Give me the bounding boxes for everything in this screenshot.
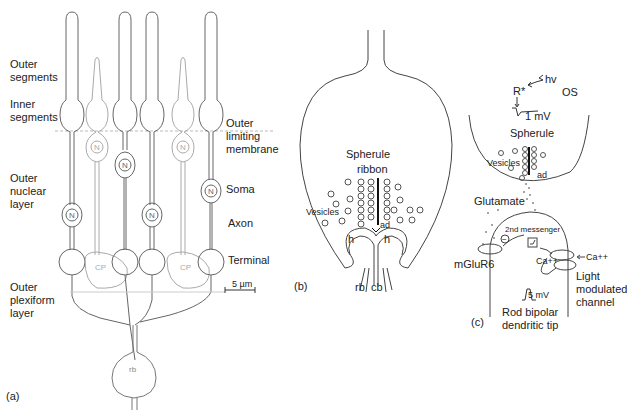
label-2nd-messenger: 2nd messenger xyxy=(505,225,560,234)
vesicles-b xyxy=(322,179,423,227)
panel-tag-b: (b) xyxy=(294,280,307,293)
label-nucleus-cone-1: N xyxy=(94,143,100,152)
spherule-c xyxy=(469,115,589,181)
label-5mv: 5 mV xyxy=(528,290,549,300)
label-outer-nuclear-layer: Outer nuclear layer xyxy=(10,172,46,211)
label-axon: Axon xyxy=(228,217,253,230)
label-spherule-c: Spherule xyxy=(510,127,554,140)
label-ribbon: ribbon xyxy=(357,163,388,176)
label-cone-pedicle-2: CP xyxy=(180,263,191,272)
label-nucleus-cone-2: N xyxy=(180,143,186,152)
label-h-right: h xyxy=(384,233,390,246)
label-1mv: 1 mV xyxy=(525,110,551,123)
label-glutamate: Glutamate xyxy=(474,195,525,208)
panel-tag-a: (a) xyxy=(6,390,19,403)
label-vesicles-b: Vesicles xyxy=(306,207,339,217)
label-ad-c: ad xyxy=(537,170,547,180)
label-soma: Soma xyxy=(226,183,255,196)
label-nucleus-rod-1: N xyxy=(69,211,75,220)
cone-2 xyxy=(167,58,209,289)
glutamate-dots xyxy=(482,183,536,245)
label-light-modulated-channel: Light modulated channel xyxy=(576,270,627,309)
label-outer-plexiform-layer: Outer plexiform layer xyxy=(10,281,55,320)
cone-1 xyxy=(85,58,127,289)
label-rb-b: rb xyxy=(355,281,365,294)
label-ca-in: Ca++ xyxy=(536,256,558,266)
label-vesicles-c: Vesicles xyxy=(487,158,520,168)
label-mglur6: mGluR6 xyxy=(454,258,494,271)
label-cone-pedicle-1: CP xyxy=(95,263,106,272)
label-minus: − xyxy=(502,235,507,244)
label-hv: hv xyxy=(545,73,557,86)
label-nucleus-rod-3: N xyxy=(149,211,155,220)
label-os: OS xyxy=(562,86,578,99)
label-terminal: Terminal xyxy=(228,254,270,267)
label-inner-segments: Inner segments xyxy=(10,98,58,124)
label-outer-segments: Outer segments xyxy=(10,58,58,84)
label-nucleus-rod-4: N xyxy=(208,187,214,196)
label-r-star: R* xyxy=(513,85,525,98)
label-h-left: h xyxy=(348,233,354,246)
label-ad-b: ad xyxy=(380,220,390,230)
label-ca-out: Ca++ xyxy=(586,252,608,262)
label-spherule-b: Spherule xyxy=(346,148,390,161)
rod-3 xyxy=(135,12,165,325)
panel-tag-c: (c) xyxy=(471,316,484,329)
label-scale-bar: 5 µm xyxy=(232,279,252,289)
label-rod-bipolar-dendritic-tip: Rod bipolar dendritic tip xyxy=(502,306,558,332)
label-nucleus-rod-2: N xyxy=(122,161,128,170)
label-cb-b: cb xyxy=(371,281,383,294)
label-rod-bipolar-a: rb xyxy=(129,365,136,374)
rod-2 xyxy=(112,12,138,360)
spherule-b xyxy=(300,30,452,292)
label-outer-limiting-membrane: Outer limiting membrane xyxy=(226,117,279,156)
